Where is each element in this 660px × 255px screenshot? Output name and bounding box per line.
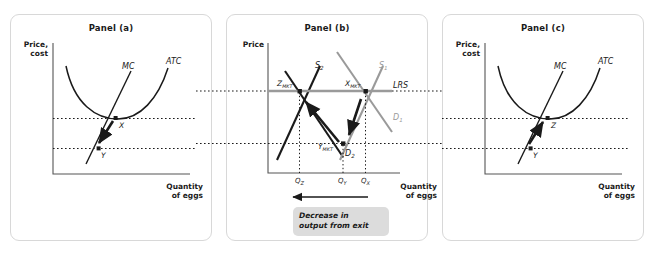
panel-a-mc-label: MC [122, 62, 135, 71]
panel-b-tick-qy-sub: Y [344, 180, 347, 186]
panel-c-mc-label: MC [554, 62, 567, 71]
panel-b-y-axis-label: Price [222, 40, 264, 49]
panel-b-tick-qy-letter: Q [338, 177, 344, 185]
panel-b-point-y-label: YMKT [318, 142, 333, 151]
panel-b-tick-qz-sub: Z [301, 180, 304, 186]
panel-b-d2-label: D2 [345, 149, 355, 158]
panel-b-s2-label: S2 [315, 61, 324, 70]
panel-a-x-axis-label: Quantity of eggs [148, 182, 203, 200]
panel-c-point-z-label: Z [551, 121, 556, 130]
panel-b-title: Panel (b) [227, 23, 427, 33]
decrease-output-callout: Decrease in output from exit [293, 207, 389, 236]
panel-a-y-axis-label: Price, cost [6, 40, 48, 58]
panel-b-point-y-letter: Y [318, 142, 323, 151]
panel-b-point-x-label: XMKT [345, 79, 360, 88]
panel-b-s1-label: S1 [379, 61, 388, 70]
panel-b-point-y-sub: MKT [323, 147, 333, 152]
panel-b-point-x-sub: MKT [350, 84, 360, 89]
panel-b-tick-qy: QY [338, 177, 347, 185]
panel-a-title: Panel (a) [11, 23, 211, 33]
panel-c-x-axis-label: Quantity of eggs [580, 182, 635, 200]
panel-c-point-y-label: Y [533, 151, 538, 160]
panel-b-x-axis-label: Quantity of eggs [382, 182, 437, 200]
panel-c-title: Panel (c) [443, 23, 643, 33]
panel-c-y-axis-label: Price, cost [438, 40, 480, 58]
panel-b-d2-sub: 2 [351, 153, 355, 159]
panel-a-point-x-label: X [119, 121, 124, 130]
panel-b-tick-qx-letter: Q [361, 177, 367, 185]
panel-b-point-z-label: ZMKT [277, 79, 292, 88]
panel-b-s2-sub: 2 [320, 65, 324, 71]
economics-figure: Panel (a) Panel (b) Panel (c) [0, 0, 660, 255]
panel-b-tick-qz: QZ [295, 177, 304, 185]
panel-b-point-z-sub: MKT [282, 84, 292, 89]
panel-b-tick-qx: QX [361, 177, 370, 185]
panel-a-atc-label: ATC [166, 57, 181, 66]
panel-b-d1-sub: 1 [399, 117, 403, 123]
panel-b-tick-qz-letter: Q [295, 177, 301, 185]
panel-a-point-y-label: Y [101, 151, 106, 160]
panel-b-lrs-label: LRS [393, 81, 408, 90]
panel-b-d1-label: D1 [393, 113, 403, 122]
panel-c-atc-label: ATC [598, 57, 613, 66]
panel-b-s1-sub: 1 [384, 65, 388, 71]
panel-b-tick-qx-sub: X [367, 180, 370, 186]
